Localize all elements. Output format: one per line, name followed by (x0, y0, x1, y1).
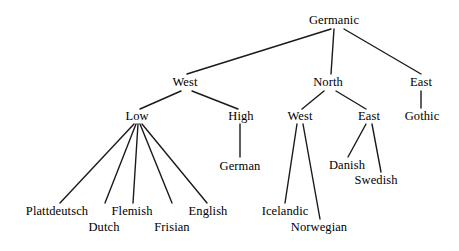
edge-germanic-to-north (331, 29, 334, 74)
tree-node-icelandic: Icelandic (262, 205, 309, 218)
tree-node-high: High (228, 110, 253, 123)
edge-lines (60, 29, 421, 219)
tree-node-norwegian: Norwegian (291, 221, 347, 234)
edge-north-east-to-danish (348, 124, 366, 157)
tree-node-west: West (172, 76, 197, 89)
tree-node-north-west: West (287, 110, 312, 123)
germanic-language-tree-diagram: GermanicWestNorthEastLowHighWestEastGoth… (0, 0, 459, 251)
tree-node-east: East (410, 76, 432, 89)
tree-node-swedish: Swedish (354, 174, 397, 187)
tree-node-plattdeutsch: Plattdeutsch (26, 205, 88, 218)
edge-low-to-english (142, 124, 207, 203)
edge-low-to-flemish (133, 124, 138, 203)
edge-north-west-to-icelandic (285, 124, 297, 203)
edge-west-to-high (192, 91, 238, 109)
edge-north-to-north-west (302, 91, 324, 109)
edge-north-east-to-swedish (372, 124, 381, 172)
edge-low-to-plattdeutsch (60, 124, 134, 203)
tree-node-low: Low (125, 110, 148, 123)
edge-low-to-dutch (105, 124, 136, 203)
edge-west-to-low (140, 91, 181, 109)
edge-germanic-to-east (344, 29, 421, 74)
tree-node-frisian: Frisian (154, 221, 189, 234)
tree-node-germanic: Germanic (309, 14, 359, 27)
edge-germanic-to-west (187, 29, 331, 74)
edge-north-to-north-east (336, 91, 366, 109)
tree-node-north-east: East (358, 110, 380, 123)
tree-node-danish: Danish (329, 159, 365, 172)
tree-node-north: North (313, 76, 343, 89)
tree-node-english: English (189, 205, 228, 218)
tree-node-dutch: Dutch (88, 221, 119, 234)
edge-low-to-frisian (140, 124, 172, 203)
tree-node-german: German (220, 160, 261, 173)
tree-node-flemish: Flemish (112, 205, 153, 218)
tree-node-gothic: Gothic (405, 110, 440, 123)
